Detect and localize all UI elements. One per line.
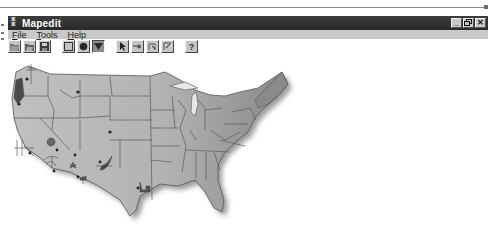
save-as-icon xyxy=(25,42,34,51)
svg-text:?: ? xyxy=(189,42,195,51)
map-canvas[interactable] xyxy=(8,55,488,234)
polygon-tool-button[interactable] xyxy=(92,40,105,53)
pointer-tool-button[interactable] xyxy=(116,40,129,53)
rectangle-tool-button[interactable] xyxy=(62,40,75,53)
arizona-marker xyxy=(74,154,77,157)
washington-marker xyxy=(25,77,28,80)
add-point-icon xyxy=(163,42,172,51)
add-point-button[interactable] xyxy=(161,40,174,53)
save-icon xyxy=(40,42,49,51)
texas-marker xyxy=(137,187,140,190)
restore-icon xyxy=(464,19,472,26)
mapedit-window: ⁑ Mapedit _ ✕ File Tools Help xyxy=(8,16,488,39)
open-button[interactable] xyxy=(8,40,21,53)
circle-icon xyxy=(79,42,88,51)
left-edge-marks xyxy=(1,10,4,55)
test-icon xyxy=(133,42,142,51)
move-point-icon xyxy=(148,42,157,51)
window-controls: _ ✕ xyxy=(451,18,486,28)
help-icon: ? xyxy=(187,42,196,51)
save-as-button[interactable] xyxy=(23,40,36,53)
save-button[interactable] xyxy=(38,40,51,53)
circle-tool-button[interactable] xyxy=(77,40,90,53)
minimize-button[interactable]: _ xyxy=(451,18,462,28)
move-point-button[interactable] xyxy=(146,40,159,53)
test-tool-button[interactable] xyxy=(131,40,144,53)
utah-marker xyxy=(53,170,56,173)
pointer-icon xyxy=(118,42,127,51)
colorado-marker xyxy=(108,130,111,133)
new-mexico-marker xyxy=(99,161,102,164)
montana-marker xyxy=(76,90,79,93)
rectangle-icon xyxy=(64,42,73,51)
toolbar: ? xyxy=(8,38,200,54)
title-bar[interactable]: ⁑ Mapedit _ ✕ xyxy=(8,16,488,30)
restore-button[interactable] xyxy=(463,18,474,28)
close-button[interactable]: ✕ xyxy=(475,18,486,28)
casino-icon xyxy=(47,138,55,146)
outer-frame-line xyxy=(0,7,487,8)
socal-marker xyxy=(77,176,80,179)
app-icon: ⁑ xyxy=(11,19,19,28)
polygon-icon xyxy=(94,42,103,51)
help-button[interactable]: ? xyxy=(185,40,198,53)
us-map xyxy=(8,55,488,234)
window-title: Mapedit xyxy=(22,18,61,29)
open-icon xyxy=(10,42,19,51)
outer-frame-corner xyxy=(484,5,488,9)
nevada-marker xyxy=(56,149,59,152)
